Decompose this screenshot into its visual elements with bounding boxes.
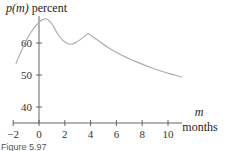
data-line (16, 19, 182, 77)
x-tick-label: 4 (88, 128, 94, 140)
x-tick-label: 2 (62, 128, 68, 140)
y-tick-label: 50 (21, 69, 33, 81)
y-axis-title: p(m) percent (5, 1, 68, 15)
x-tick-label: 6 (114, 128, 120, 140)
x-tick-label: 10 (163, 128, 175, 140)
figure-caption: Figure 5.97 (1, 142, 47, 151)
x-tick-label: 0 (36, 128, 42, 140)
x-tick-label: 8 (139, 128, 145, 140)
x-axis-unit: months (182, 120, 218, 134)
ticks: −20246810405060 (7, 37, 174, 140)
x-tick-label: −2 (7, 128, 19, 140)
y-axis-var: p(m) (5, 1, 29, 15)
y-tick-label: 40 (21, 101, 33, 113)
x-axis-var: m (195, 105, 204, 119)
line-chart: −20246810405060 p(m) percent m months (0, 0, 225, 151)
y-axis-unit: percent (29, 1, 68, 15)
